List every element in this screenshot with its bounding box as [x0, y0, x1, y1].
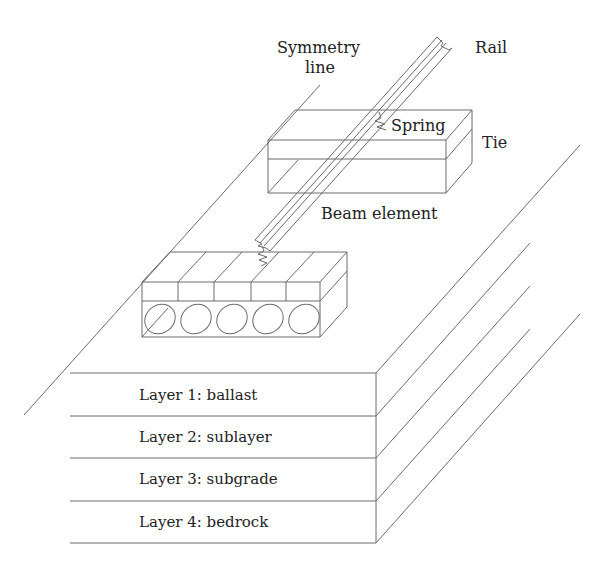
ballast-spring [258, 246, 267, 266]
track-model-diagram: Layer 1: ballast Layer 2: sublayer Layer… [0, 0, 604, 568]
spring-label: Spring [391, 116, 446, 135]
layer-3-label: Layer 3: subgrade [139, 470, 278, 488]
rail-label: Rail [475, 38, 507, 57]
symmetry-line [24, 85, 320, 415]
symmetry-line-label-2: line [305, 58, 335, 77]
symmetry-line-label: Symmetry [277, 38, 360, 57]
layer-1-label: Layer 1: ballast [139, 386, 257, 404]
beam-element-label: Beam element [321, 204, 438, 223]
ballast-element-block [139, 252, 347, 340]
layer-4-label: Layer 4: bedrock [139, 513, 269, 531]
layer-2-label: Layer 2: sublayer [139, 428, 273, 446]
tie-label: Tie [482, 133, 507, 152]
